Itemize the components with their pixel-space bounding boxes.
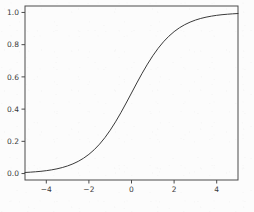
y-tick-label: 0.4 (7, 105, 19, 114)
chart-figure: −4−2024 0.00.20.40.60.81.0 (0, 0, 254, 212)
x-tick-label: −2 (83, 185, 94, 194)
x-tick-label: 0 (129, 185, 134, 194)
y-axis-tick-labels: 0.00.20.40.60.81.0 (7, 8, 19, 178)
y-tick-label: 0.8 (7, 40, 19, 49)
x-axis-ticks (46, 180, 216, 184)
x-tick-label: 2 (172, 185, 177, 194)
x-tick-label: 4 (214, 185, 219, 194)
y-tick-label: 0.6 (7, 73, 19, 82)
y-tick-label: 0.0 (7, 169, 19, 178)
y-axis-ticks (22, 12, 26, 173)
y-tick-label: 1.0 (7, 8, 19, 17)
y-tick-label: 0.2 (7, 137, 19, 146)
chart-canvas: −4−2024 0.00.20.40.60.81.0 (0, 0, 254, 212)
x-tick-label: −4 (41, 185, 52, 194)
x-axis-tick-labels: −4−2024 (41, 185, 220, 194)
